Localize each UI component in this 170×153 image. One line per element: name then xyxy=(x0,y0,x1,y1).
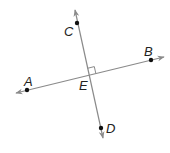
diagram-canvas: C B A E D xyxy=(0,0,170,153)
point-c xyxy=(75,21,79,25)
label-b: B xyxy=(144,44,153,59)
line-ab xyxy=(16,57,164,93)
label-d: D xyxy=(106,121,115,136)
point-d xyxy=(99,126,103,130)
label-e: E xyxy=(79,78,88,93)
line-cd xyxy=(75,10,103,138)
label-c: C xyxy=(64,24,74,39)
label-a: A xyxy=(23,74,33,89)
perpendicular-lines-figure: C B A E D xyxy=(0,0,170,153)
